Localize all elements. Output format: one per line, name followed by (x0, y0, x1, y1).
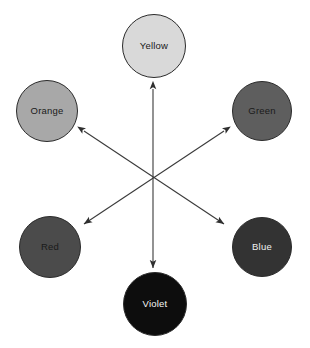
color-node-label-green: Green (248, 106, 275, 116)
color-node-label-violet: Violet (143, 299, 168, 309)
color-node-label-blue: Blue (252, 242, 272, 252)
color-node-green[interactable]: Green (232, 81, 292, 141)
color-wheel-diagram: Yellow Orange Green Red Blue Violet (0, 0, 310, 348)
color-node-yellow[interactable]: Yellow (122, 14, 186, 78)
color-node-label-yellow: Yellow (140, 41, 168, 51)
color-node-red[interactable]: Red (19, 216, 81, 278)
color-node-violet[interactable]: Violet (123, 272, 187, 336)
color-node-orange[interactable]: Orange (16, 80, 78, 142)
color-node-blue[interactable]: Blue (232, 217, 292, 277)
color-node-label-orange: Orange (31, 106, 64, 116)
color-node-label-red: Red (41, 242, 59, 252)
